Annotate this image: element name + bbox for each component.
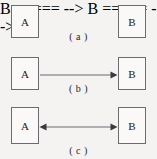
node-a-row-c: A [11,107,39,144]
communication-modes-figure: B ===== --> A B ( a ) B ===== --> A B ( … [0,0,157,159]
node-label: A [12,16,38,27]
diagram-row-c: A B ( c ) [0,104,157,159]
diagram-row-a: A B ( a ) [0,0,157,52]
caption-b: ( b ) [0,83,157,94]
node-label: A [12,68,38,79]
node-label: B [119,68,145,79]
node-label: B [119,120,145,131]
caption-a: ( a ) [0,31,157,42]
caption-c: ( c ) [0,145,157,156]
node-label: A [12,120,38,131]
node-label: B [119,16,145,27]
node-b-row-c: B [118,107,146,144]
diagram-row-b: A B ( b ) [0,52,157,104]
